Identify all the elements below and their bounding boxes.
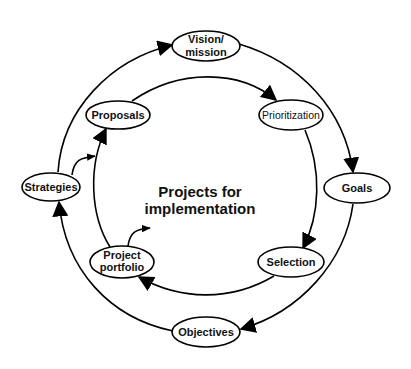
edge-strategies-to-proposals <box>72 156 95 175</box>
edge-proposals-to-prioritization <box>132 77 276 101</box>
node-prioritization: Prioritization <box>259 100 323 130</box>
node-vision-label-1: Vision/ <box>188 33 224 45</box>
edge-prioritization-to-selection <box>303 130 317 248</box>
node-selection-label: Selection <box>267 256 316 268</box>
node-portfolio-label-2: portfolio <box>100 261 145 273</box>
node-selection: Selection <box>258 247 324 277</box>
node-goals: Goals <box>324 173 390 203</box>
edge-portfolio-to-proposals <box>94 129 110 247</box>
center-label-line-2: implementation <box>145 200 256 217</box>
center-label: Projects for implementation <box>145 183 256 217</box>
node-proposals-label: Proposals <box>91 109 144 121</box>
node-strategies: Strategies <box>22 173 80 201</box>
node-goals-label: Goals <box>342 182 373 194</box>
node-strategies-label: Strategies <box>24 181 77 193</box>
center-label-line-1: Projects for <box>158 183 242 200</box>
node-objectives-label: Objectives <box>178 326 234 338</box>
edge-portfolio-to-implementation <box>128 228 150 246</box>
edge-selection-to-portfolio <box>139 276 274 295</box>
node-project-portfolio: Project portfolio <box>90 246 154 278</box>
cycle-diagram: Vision/ mission Goals Objectives Strateg… <box>0 0 411 369</box>
node-proposals: Proposals <box>86 101 150 129</box>
node-vision-label-2: mission <box>185 46 227 58</box>
node-objectives: Objectives <box>172 317 240 347</box>
node-portfolio-label-1: Project <box>103 249 141 261</box>
node-prioritization-label: Prioritization <box>262 109 320 121</box>
node-vision-mission: Vision/ mission <box>172 31 240 61</box>
